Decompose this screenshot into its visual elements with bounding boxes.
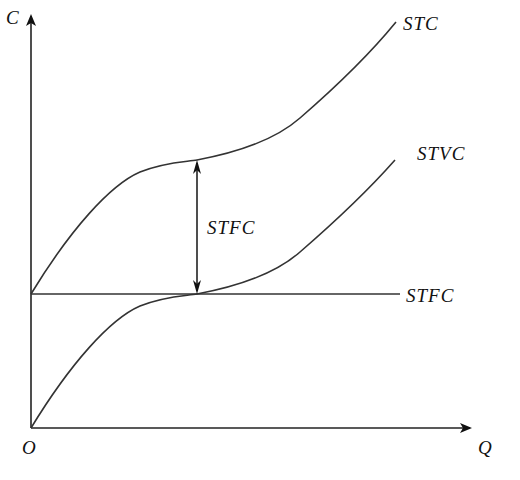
origin-label: O (22, 437, 36, 458)
stc-label: STC (403, 13, 439, 34)
stfc-label: STFC (406, 285, 454, 306)
stfc-gap-label: STFC (207, 217, 255, 238)
stvc-label: STVC (417, 143, 465, 164)
x-axis-label: Q (478, 437, 492, 458)
y-axis-label: C (6, 7, 19, 28)
stc-curve (31, 22, 396, 294)
cost-curves-diagram: C Q O STC STVC STFC STFC (0, 0, 520, 480)
